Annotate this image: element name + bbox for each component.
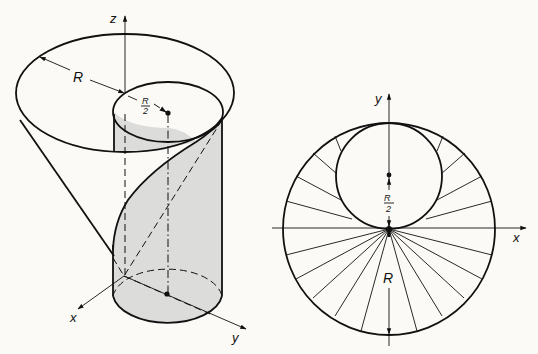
right-top-view: x y <box>272 91 526 346</box>
half-r-denominator: 2 <box>142 106 148 116</box>
r-dimension-arrow-right <box>90 80 124 93</box>
cone-edge-line <box>20 120 114 256</box>
half-r-numerator-right: R <box>384 193 391 203</box>
half-r-denominator-right: 2 <box>385 204 391 214</box>
left-3d-figure: z x y R R 2 <box>16 11 246 345</box>
origin-hub-tail <box>388 229 391 237</box>
x-axis-label: x <box>69 310 77 325</box>
r-dimension-label: R <box>73 69 83 85</box>
z-axis-label: z <box>109 11 117 26</box>
top-center-dot <box>165 110 170 115</box>
bottom-center-dot <box>164 291 169 296</box>
diagram-canvas: z x y R R 2 x y <box>0 0 538 354</box>
half-r-numerator: R <box>142 96 149 106</box>
x-axis-label-right: x <box>512 230 520 245</box>
half-r-arrow <box>154 104 166 112</box>
y-axis-label-right: y <box>374 91 383 106</box>
inner-center-dot <box>387 173 392 178</box>
r-label-right: R <box>383 270 393 286</box>
r-dimension-arrow-left <box>40 57 70 70</box>
y-axis-label: y <box>231 330 240 345</box>
half-r-arrow-start <box>128 96 137 100</box>
